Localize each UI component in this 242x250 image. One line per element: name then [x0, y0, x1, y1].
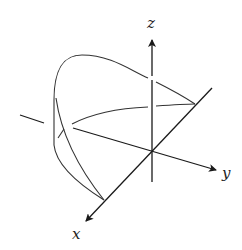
z-axis-label: z [146, 14, 155, 32]
y-axis-label: y [221, 164, 231, 182]
diagram-canvas: z y x [0, 0, 242, 250]
x-axis [86, 88, 212, 221]
x-axis-label: x [72, 225, 81, 243]
y-axis [20, 115, 216, 170]
